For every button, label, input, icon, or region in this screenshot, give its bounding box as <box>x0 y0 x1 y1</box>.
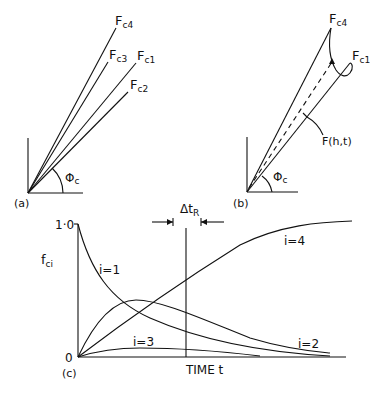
x-axis-label: TIME t <box>185 363 224 377</box>
label-fc1: Fc1 <box>137 48 155 65</box>
leader-line <box>307 117 323 135</box>
panel-label-a: (a) <box>14 197 29 210</box>
angle-arc-b <box>262 176 272 192</box>
curve-label-i1: i=1 <box>99 263 120 277</box>
angle-arc-a <box>52 168 63 193</box>
trajectory-curve <box>330 28 353 76</box>
y-tick-0: 0 <box>65 351 73 365</box>
pointer-tick <box>303 113 307 117</box>
curve-label-i3: i=3 <box>133 335 154 349</box>
panel-c: 1·0 0 fci ΔtR i=1 i=2 i=3 i=4 TIME t (c) <box>41 202 352 380</box>
label-fc4: Fc4 <box>115 13 133 30</box>
resultant-vector-dashed <box>249 62 332 188</box>
label-fc1-b: Fc1 <box>352 48 370 65</box>
resultant-label: F(h,t) <box>322 135 352 148</box>
curve-i3 <box>78 348 260 357</box>
vector-fc4 <box>28 28 116 193</box>
figure: Fc4 Fc3 Fc1 Fc2 Φc (a) F(h,t) Φc Fc4 Fc1… <box>0 0 378 398</box>
vector-fc1-b <box>247 63 350 192</box>
label-fc4-b: Fc4 <box>329 11 347 28</box>
panel-label-b: (b) <box>233 197 249 210</box>
vector-fc4-b <box>247 28 331 192</box>
curve-label-i4: i=4 <box>284 234 305 248</box>
curve-label-i2: i=2 <box>298 337 319 351</box>
panel-a: Fc4 Fc3 Fc1 Fc2 Φc (a) <box>14 13 155 210</box>
y-axis-label: fci <box>41 252 53 269</box>
vector-fc1 <box>28 63 136 193</box>
arrowhead-icon <box>201 219 207 225</box>
arrowhead-icon <box>329 58 335 64</box>
y-tick-1: 1·0 <box>55 218 74 232</box>
angle-label-a: Φc <box>65 171 79 186</box>
arrowhead-icon <box>167 219 173 225</box>
panel-label-c: (c) <box>62 367 77 380</box>
panel-b: F(h,t) Φc Fc4 Fc1 (b) <box>233 11 370 210</box>
angle-label-b: Φc <box>273 170 287 185</box>
label-fc2: Fc2 <box>130 77 148 94</box>
interval-label: ΔtR <box>180 202 199 218</box>
label-fc3: Fc3 <box>109 47 127 64</box>
